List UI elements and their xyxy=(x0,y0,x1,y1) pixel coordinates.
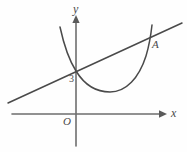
math-figure: y x O 3 A xyxy=(0,0,187,152)
x-axis-arrowhead xyxy=(159,110,167,117)
straight-line xyxy=(8,23,182,103)
y-axis-arrowhead xyxy=(72,15,79,23)
origin-label: O xyxy=(63,116,71,127)
x-axis-label: x xyxy=(171,107,176,119)
intersection-point-label: A xyxy=(152,39,159,50)
y-axis-label: y xyxy=(73,3,78,15)
y-intercept-value-label: 3 xyxy=(69,74,74,84)
figure-canvas xyxy=(0,0,187,152)
